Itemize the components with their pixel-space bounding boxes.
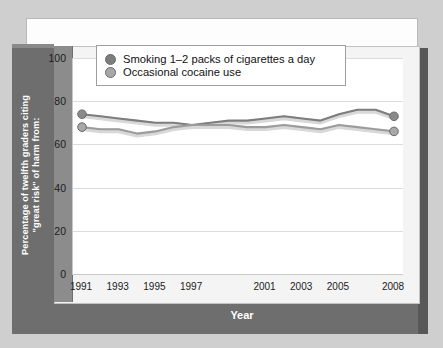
y-tick-label: 0 bbox=[60, 269, 66, 279]
series-endpoint-marker bbox=[390, 127, 399, 136]
legend-color-swatch-series-1 bbox=[105, 54, 116, 65]
y-tick-label: 60 bbox=[54, 139, 66, 149]
y-axis-ticks: 020406080100 bbox=[18, 58, 70, 278]
legend-label-series-1: Smoking 1–2 packs of cigarettes a day bbox=[123, 53, 315, 65]
legend-color-swatch-series-2 bbox=[105, 67, 116, 78]
data-lines bbox=[73, 58, 403, 274]
x-tick-label: 1997 bbox=[180, 281, 202, 292]
x-tick-label: 1995 bbox=[143, 281, 165, 292]
plot-area bbox=[72, 58, 403, 275]
series-endpoint-marker bbox=[78, 123, 87, 132]
x-tick-label: 2005 bbox=[327, 281, 349, 292]
slab-left-bevel bbox=[12, 44, 54, 48]
x-tick-label: 1993 bbox=[107, 281, 129, 292]
legend-item: Smoking 1–2 packs of cigarettes a day bbox=[105, 53, 337, 65]
x-tick-label: 1991 bbox=[70, 281, 92, 292]
chart-figure: Percentage of twelfth graders citing "gr… bbox=[0, 0, 443, 348]
legend-item: Occasional cocaine use bbox=[105, 66, 337, 78]
x-axis-ticks: 19911993199519972001200320052008 bbox=[72, 281, 408, 297]
chart-legend: Smoking 1–2 packs of cigarettes a day Oc… bbox=[96, 45, 346, 86]
y-tick-label: 20 bbox=[54, 226, 66, 236]
series-endpoint-marker bbox=[78, 110, 87, 119]
x-tick-label: 2008 bbox=[382, 281, 404, 292]
series-endpoint-marker bbox=[390, 112, 399, 121]
x-tick-label: 2003 bbox=[290, 281, 312, 292]
x-tick-label: 2001 bbox=[253, 281, 275, 292]
y-tick-label: 100 bbox=[48, 53, 66, 63]
y-tick-label: 40 bbox=[54, 183, 66, 193]
x-axis-title: Year bbox=[72, 309, 412, 321]
y-tick-label: 80 bbox=[54, 96, 66, 106]
slab-top-face bbox=[26, 18, 418, 47]
legend-label-series-2: Occasional cocaine use bbox=[123, 66, 241, 78]
